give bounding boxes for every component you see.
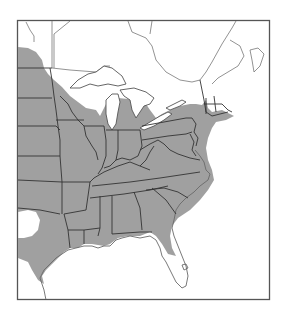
range-map — [0, 0, 287, 320]
